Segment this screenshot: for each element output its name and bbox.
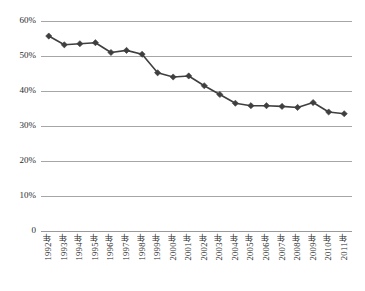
data-point-marker <box>77 41 83 47</box>
x-axis-tick-label: 1995年 <box>90 233 101 261</box>
x-axis-tick-label: 2002年 <box>199 233 210 261</box>
data-point-marker <box>341 111 347 117</box>
x-axis-tick-label: 2007年 <box>277 233 288 261</box>
x-axis-tick-label: 2005年 <box>245 233 256 261</box>
x-axis-tick-label: 2004年 <box>230 233 241 261</box>
y-axis-tick-label: 60% <box>0 16 36 25</box>
data-point-marker <box>294 104 300 110</box>
x-axis-tick-label: 2003年 <box>214 233 225 261</box>
x-axis: 1992年1993年1994年1995年1996年1997年1998年1999年… <box>41 233 352 291</box>
data-point-marker <box>263 103 269 109</box>
plot-area <box>41 21 352 231</box>
x-axis-tick-label: 1992年 <box>43 233 54 261</box>
y-axis-tick-label: 30% <box>0 121 36 130</box>
x-axis-tick-label: 2006年 <box>261 233 272 261</box>
x-axis-tick-label: 1999年 <box>152 233 163 261</box>
data-point-marker <box>217 91 223 97</box>
y-axis-tick-label: 40% <box>0 86 36 95</box>
x-axis-tick-label: 2008年 <box>292 233 303 261</box>
data-point-marker <box>248 103 254 109</box>
data-point-marker <box>279 103 285 109</box>
data-point-marker <box>46 33 52 39</box>
x-axis-tick-label: 1998年 <box>137 233 148 261</box>
data-point-marker <box>123 47 129 53</box>
x-axis-tick-label: 2000年 <box>168 233 179 261</box>
y-axis-tick-label: 0 <box>0 226 36 235</box>
x-axis-tick-label: 1993年 <box>59 233 70 261</box>
x-axis-tick-label: 1997年 <box>121 233 132 261</box>
x-axis-tick-label: 2009年 <box>308 233 319 261</box>
gridline-0 <box>41 231 352 232</box>
y-axis-tick-label: 20% <box>0 156 36 165</box>
x-axis-tick-label: 2001年 <box>183 233 194 261</box>
y-axis-tick-label: 50% <box>0 51 36 60</box>
series-markers <box>46 33 348 117</box>
x-axis-tick-label: 2010年 <box>323 233 334 261</box>
y-axis-tick-label: 10% <box>0 191 36 200</box>
x-axis-tick-label: 2011年 <box>339 233 350 260</box>
data-point-marker <box>170 74 176 80</box>
x-axis-tick-label: 1996年 <box>105 233 116 261</box>
x-axis-tick-label: 1994年 <box>74 233 85 261</box>
data-point-marker <box>232 100 238 106</box>
data-series-svg <box>41 21 352 231</box>
data-point-marker <box>61 42 67 48</box>
line-chart: 60%50%40%30%20%10%0 1992年1993年1994年1995年… <box>0 0 365 291</box>
series-line <box>49 36 344 114</box>
